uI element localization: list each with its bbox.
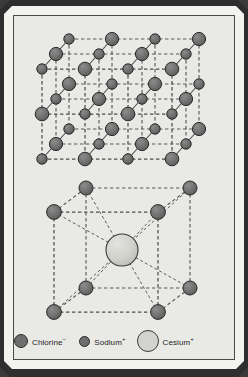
ion-chlorine: [47, 205, 62, 220]
legend-item-cesium: Cesium+: [137, 330, 194, 352]
cesium-swatch-icon: [137, 330, 159, 352]
legend: Chlorine− Sodium+ Cesium+: [14, 326, 234, 356]
sodium-swatch-icon: [79, 336, 90, 347]
ion-cesium: [106, 234, 138, 266]
ion-chlorine: [135, 47, 148, 60]
ion-sodium: [150, 34, 160, 44]
ion-sodium: [94, 49, 104, 59]
ion-chlorine: [151, 305, 166, 320]
ion-chlorine: [49, 137, 62, 150]
ion-chlorine: [78, 152, 92, 166]
ion-sodium: [137, 94, 147, 104]
cscl-lattice: [47, 181, 197, 319]
ion-sodium: [94, 139, 104, 149]
chlorine-swatch-icon: [14, 334, 28, 348]
ion-chlorine: [49, 47, 62, 60]
ion-sodium: [51, 94, 61, 104]
nacl-depth-lines: [42, 39, 199, 159]
ion-sodium: [167, 109, 177, 119]
ion-chlorine: [179, 92, 192, 105]
ion-chlorine: [151, 205, 166, 220]
ion-chlorine: [62, 77, 75, 90]
ion-chlorine: [183, 281, 197, 295]
ion-chlorine: [35, 107, 49, 121]
ion-chlorine: [47, 305, 62, 320]
ion-chlorine: [105, 32, 118, 45]
ion-sodium: [107, 79, 117, 89]
ion-chlorine: [78, 62, 92, 76]
ion-chlorine: [79, 281, 93, 295]
ion-chlorine: [192, 32, 205, 45]
ion-sodium: [64, 34, 74, 44]
ion-sodium: [181, 139, 191, 149]
ion-chlorine: [79, 181, 93, 195]
ion-sodium: [123, 64, 133, 74]
ion-sodium: [80, 109, 90, 119]
ion-chlorine: [183, 181, 197, 195]
ion-chlorine: [165, 152, 179, 166]
legend-item-chlorine: Chlorine−: [14, 334, 66, 348]
ion-sodium: [123, 154, 133, 164]
ion-sodium: [64, 124, 74, 134]
legend-label-cesium: Cesium+: [163, 336, 194, 347]
ion-sodium: [37, 64, 47, 74]
ion-chlorine: [148, 77, 161, 90]
ion-sodium: [37, 154, 47, 164]
ion-chlorine: [135, 137, 148, 150]
ion-sodium: [181, 49, 191, 59]
ion-chlorine: [105, 122, 118, 135]
ion-sodium: [150, 124, 160, 134]
legend-label-sodium: Sodium+: [94, 336, 125, 347]
ion-chlorine: [121, 107, 135, 121]
ion-sodium: [194, 79, 204, 89]
lattice-figure: .bond{stroke:#5a5a5a;stroke-width:1.15;s…: [14, 16, 234, 359]
ion-chlorine: [192, 122, 205, 135]
legend-label-chlorine: Chlorine−: [32, 336, 66, 347]
cscl-front-face: [54, 212, 158, 312]
legend-item-sodium: Sodium+: [79, 336, 125, 347]
ion-chlorine: [92, 92, 105, 105]
ion-chlorine: [165, 62, 179, 76]
cscl-back-face: [86, 188, 190, 288]
figure-panel: .bond{stroke:#5a5a5a;stroke-width:1.15;s…: [13, 15, 235, 360]
nacl-lattice: [35, 32, 205, 165]
